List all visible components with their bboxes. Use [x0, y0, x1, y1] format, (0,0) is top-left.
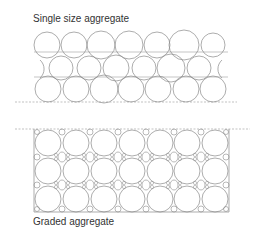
- graded-aggregate-packing: [34, 129, 229, 212]
- aggregate-diagram: [0, 0, 265, 231]
- single-size-aggregate-packing: [34, 30, 228, 103]
